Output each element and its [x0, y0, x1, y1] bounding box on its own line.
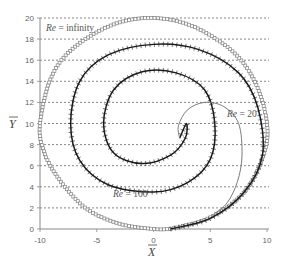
marker-square — [265, 120, 268, 123]
marker-square — [42, 103, 45, 106]
y-tick-label: 4 — [30, 183, 35, 192]
marker-square — [263, 108, 266, 111]
y-tick-label: 6 — [30, 162, 35, 171]
marker-square — [184, 22, 187, 25]
marker-square — [106, 25, 109, 28]
marker-square — [43, 153, 46, 156]
marker-square — [264, 114, 267, 117]
y-tick-label: 2 — [30, 204, 35, 213]
marker-square — [124, 224, 127, 227]
marker-square — [266, 130, 269, 133]
annotation-re-infinity: Re = infinity — [45, 23, 94, 33]
marker-square — [137, 226, 140, 229]
y-tick-label: 8 — [30, 141, 35, 150]
marker-square — [140, 226, 143, 229]
marker-square — [140, 17, 143, 20]
marker-square — [124, 19, 127, 22]
marker-square — [39, 115, 42, 118]
x-tick-label: -10 — [34, 236, 46, 245]
marker-square — [38, 131, 41, 134]
marker-square — [46, 87, 49, 90]
marker-square — [112, 220, 115, 223]
annotation-re-20: Re = 20 — [226, 109, 257, 119]
x-tick-label: 0 — [151, 236, 156, 245]
marker-square — [266, 139, 269, 142]
marker-square — [175, 19, 178, 22]
svg-text:Y: Y — [9, 117, 17, 131]
marker-square — [257, 89, 260, 92]
marker-square — [128, 18, 131, 21]
data-series — [38, 16, 269, 231]
marker-square — [264, 146, 267, 149]
marker-square — [159, 228, 162, 231]
marker-square — [42, 150, 45, 153]
marker-square — [43, 96, 46, 99]
marker-square — [166, 228, 169, 231]
marker-square — [44, 93, 47, 96]
marker-square — [190, 24, 193, 27]
marker-square — [259, 95, 262, 98]
marker-square — [47, 84, 50, 87]
marker-square — [118, 21, 121, 24]
marker-square — [97, 214, 100, 217]
marker-square — [40, 144, 43, 147]
marker-square — [266, 123, 269, 126]
marker-square — [162, 228, 165, 231]
marker-square — [159, 17, 162, 20]
svg-text:X: X — [147, 245, 156, 259]
marker-square — [266, 133, 269, 136]
y-tick-label: 14 — [25, 77, 34, 86]
marker-square — [40, 141, 43, 144]
marker-square — [118, 222, 121, 225]
marker-square — [153, 17, 156, 20]
marker-square — [265, 117, 268, 120]
y-tick-label: 20 — [25, 14, 34, 23]
marker-square — [266, 127, 269, 130]
annotation-re-100: Re = 100 — [112, 189, 148, 199]
marker-square — [38, 125, 41, 128]
marker-square — [50, 75, 53, 78]
marker-square — [49, 78, 52, 81]
marker-square — [156, 17, 159, 20]
marker-square — [264, 111, 267, 114]
marker-square — [41, 106, 44, 109]
marker-square — [39, 118, 42, 121]
spiral-chart: 02468101214161820-10-50510 Re = infinity… — [0, 0, 286, 263]
marker-square — [143, 17, 146, 20]
marker-square — [266, 136, 269, 139]
marker-square — [40, 112, 43, 115]
marker-square — [38, 128, 41, 131]
marker-square — [147, 16, 150, 19]
marker-square — [48, 81, 51, 84]
marker-square — [41, 147, 44, 150]
marker-square — [261, 101, 264, 104]
x-tick-label: -5 — [93, 236, 101, 245]
marker-square — [156, 228, 159, 231]
marker-square — [256, 86, 259, 89]
marker-square — [193, 26, 196, 29]
x-axis-title: X — [147, 245, 157, 259]
y-axis-title: Y — [9, 117, 18, 131]
y-tick-label: 10 — [25, 120, 34, 129]
marker-square — [163, 17, 166, 20]
marker-square — [196, 27, 199, 30]
marker-square — [178, 20, 181, 23]
x-tick-label: 10 — [263, 236, 272, 245]
marker-square — [131, 18, 134, 21]
marker-square — [115, 22, 118, 25]
marker-square — [169, 18, 172, 21]
marker-square — [150, 16, 153, 19]
marker-square — [45, 90, 48, 93]
marker-square — [127, 225, 130, 228]
marker-square — [260, 98, 263, 101]
marker-square — [181, 21, 184, 24]
marker-square — [121, 223, 124, 226]
x-tick-label: 5 — [208, 236, 213, 245]
axes: 02468101214161820-10-50510 — [25, 14, 272, 245]
marker-square — [134, 17, 137, 20]
marker-square — [40, 109, 43, 112]
y-tick-label: 18 — [25, 35, 34, 44]
marker-square — [109, 219, 112, 222]
marker-square — [153, 228, 156, 231]
marker-square — [39, 122, 42, 125]
